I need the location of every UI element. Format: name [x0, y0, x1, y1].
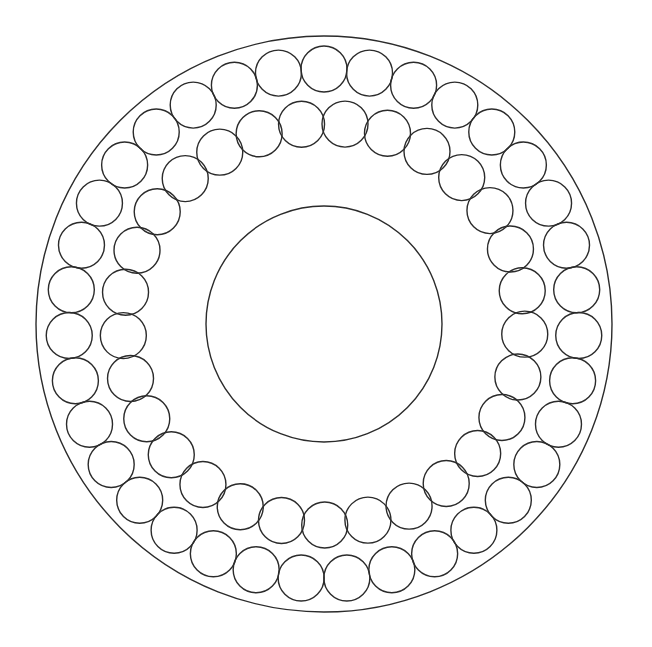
canvas-background [0, 0, 652, 647]
circle-packing-diagram [0, 0, 652, 647]
